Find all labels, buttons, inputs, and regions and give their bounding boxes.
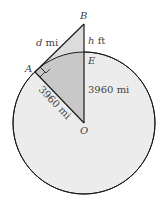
height-unit: ft [94, 35, 105, 46]
point-A-label: A [24, 63, 32, 74]
point-E-label: E [87, 55, 96, 66]
point-O-label: O [80, 125, 88, 136]
radius-vertical-label: 3960 mi [88, 84, 129, 95]
tangent-unit: mi [42, 37, 58, 48]
point-B-label: B [79, 10, 87, 21]
tangent-length-label: d mi [36, 37, 58, 48]
earth-horizon-diagram: B A E O d mi h ft 3960 mi 3960 mi [0, 0, 166, 202]
height-label: h ft [88, 35, 105, 46]
